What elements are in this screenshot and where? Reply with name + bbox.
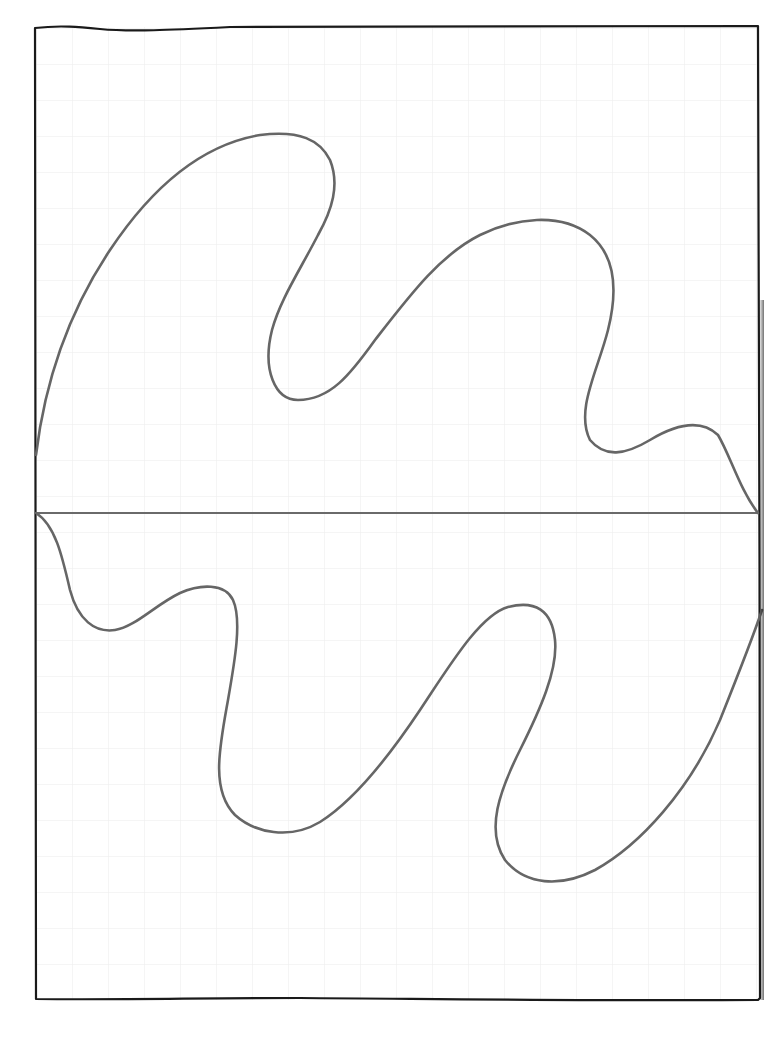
drawing-svg (0, 0, 764, 1042)
page-edge-shadow (759, 300, 764, 1000)
drawing-canvas (0, 0, 764, 1042)
